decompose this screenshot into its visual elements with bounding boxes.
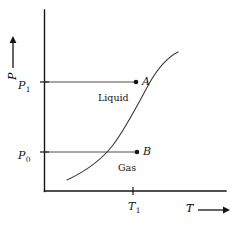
tick-label-p1-symbol: P (18, 79, 25, 92)
vaporization-curve (67, 52, 178, 180)
tick-label-p0: P0 (18, 146, 30, 162)
tick-label-p0-subscript: 0 (26, 155, 31, 164)
phase-diagram-figure: P1 P0 T1 A B Liquid Gas P T (0, 0, 234, 226)
tick-label-t1: T1 (128, 197, 140, 213)
point-a-marker (134, 80, 139, 85)
temperature-axis-label: T (186, 201, 232, 217)
region-label-gas: Gas (118, 163, 136, 173)
temperature-axis-arrow-icon (197, 201, 231, 217)
pressure-axis-symbol: P (6, 73, 19, 80)
tick-label-p0-symbol: P (18, 149, 25, 162)
point-a-label: A (142, 76, 150, 87)
tick-label-t1-subscript: 1 (136, 206, 141, 215)
pressure-axis-label: P (4, 34, 22, 80)
temperature-axis-symbol: T (186, 202, 193, 215)
tick-label-t1-symbol: T (128, 200, 135, 213)
point-b-label: B (143, 146, 151, 157)
region-label-liquid: Liquid (98, 93, 129, 103)
tick-label-p1-subscript: 1 (26, 85, 31, 94)
diagram-canvas (0, 0, 234, 226)
point-b-marker (135, 150, 140, 155)
pressure-axis-arrow-icon (4, 35, 20, 69)
